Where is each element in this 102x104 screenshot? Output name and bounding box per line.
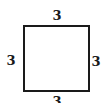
side-label-bottom: 3: [52, 95, 61, 104]
side-label-top: 3: [52, 9, 61, 22]
square-shape: [23, 25, 90, 92]
side-label-left: 3: [6, 54, 15, 67]
side-label-right: 3: [91, 55, 100, 68]
